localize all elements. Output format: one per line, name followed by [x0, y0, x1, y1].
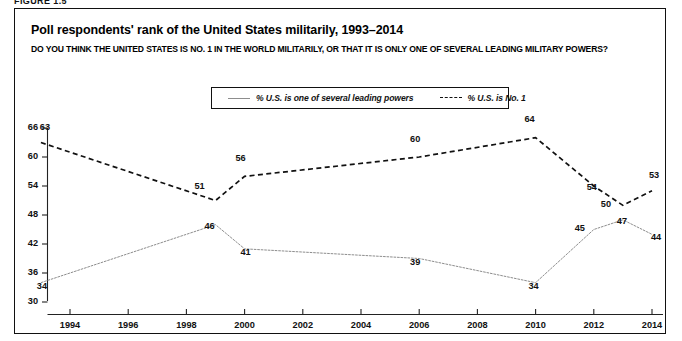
- data-point-label-leading-powers: 41: [235, 247, 257, 257]
- x-axis-tick-label: 2000: [225, 320, 265, 330]
- x-axis-tick-label: 2004: [341, 320, 381, 330]
- y-axis-tick-label: 36: [16, 267, 38, 277]
- y-axis-tick-label: 60: [16, 151, 38, 161]
- x-axis-tick-label: 1996: [108, 320, 148, 330]
- x-axis-tick-label: 2002: [283, 320, 323, 330]
- data-point-label-no-1: 54: [581, 182, 603, 192]
- x-axis-tick-label: 2008: [457, 320, 497, 330]
- data-point-label-leading-powers: 46: [199, 221, 221, 231]
- figure-container: Poll respondents' rank of the United Sta…: [14, 8, 666, 334]
- data-point-label-leading-powers: 47: [611, 216, 633, 226]
- data-point-label-leading-powers: 39: [404, 257, 426, 267]
- line-solid-icon: [228, 98, 250, 99]
- page-title: Poll respondents' rank of the United Sta…: [31, 23, 403, 37]
- x-axis-tick-label: 2014: [632, 320, 672, 330]
- chart-legend: % U.S. is one of several leading powers …: [211, 87, 509, 109]
- data-point-label-leading-powers: 34: [31, 281, 53, 291]
- data-point-label-no-1: 60: [404, 134, 426, 144]
- data-point-label-no-1: 56: [230, 153, 252, 163]
- legend-label-no-1: % U.S. is No. 1: [468, 93, 526, 103]
- y-axis-tick-label: 42: [16, 238, 38, 248]
- x-axis-tick-label: 2012: [574, 320, 614, 330]
- x-axis-tick-label: 2006: [399, 320, 439, 330]
- data-point-label-no-1: 63: [34, 122, 56, 132]
- legend-label-leading-powers: % U.S. is one of several leading powers: [256, 93, 414, 103]
- y-axis-tick-label: 54: [16, 180, 38, 190]
- x-axis-tick-label: 1998: [166, 320, 206, 330]
- data-point-label-no-1: 64: [519, 114, 541, 124]
- data-point-label-leading-powers: 45: [569, 223, 591, 233]
- x-axis-tick-label: 2010: [516, 320, 556, 330]
- legend-item-leading-powers: % U.S. is one of several leading powers: [228, 93, 414, 103]
- data-point-label-no-1: 50: [595, 199, 617, 209]
- x-axis-tick-label: 1994: [50, 320, 90, 330]
- legend-item-no-1: % U.S. is No. 1: [440, 93, 526, 103]
- data-point-label-leading-powers: 44: [645, 232, 667, 242]
- y-axis-tick-label: 30: [16, 296, 38, 306]
- data-point-label-no-1: 51: [189, 181, 211, 191]
- data-point-label-leading-powers: 34: [523, 281, 545, 291]
- y-axis-tick-label: 48: [16, 209, 38, 219]
- figure-subtitle: DO YOU THINK THE UNITED STATES IS NO. 1 …: [31, 44, 608, 54]
- data-point-label-no-1: 53: [643, 170, 665, 180]
- figure-number-label: FIGURE 1.5: [14, 0, 67, 6]
